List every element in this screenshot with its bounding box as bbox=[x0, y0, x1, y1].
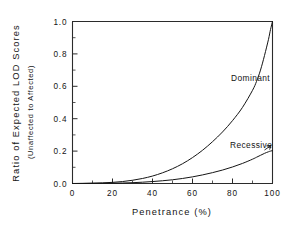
y-axis-title-main: Ratio of Expected LOD Scores bbox=[11, 24, 21, 181]
curve-dominant bbox=[73, 22, 273, 184]
x-tick-labels: 020406080100 bbox=[70, 189, 281, 198]
data-curves bbox=[73, 22, 273, 184]
y-tick-label: 1.0 bbox=[53, 18, 67, 27]
x-tick-label: 80 bbox=[227, 189, 238, 198]
y-axis-title-sub: (Unaffected to Affected) bbox=[26, 65, 35, 159]
axis-ticks bbox=[73, 22, 273, 184]
chart-figure: 020406080100 0.00.20.40.60.81.0 Dominant… bbox=[0, 0, 297, 225]
y-tick-label: 0.4 bbox=[53, 115, 67, 124]
penetrance-lod-ratio-chart: 020406080100 0.00.20.40.60.81.0 Dominant… bbox=[0, 0, 297, 225]
x-tick-label: 60 bbox=[187, 189, 198, 198]
curve-recessive bbox=[73, 151, 273, 184]
x-tick-label: 40 bbox=[147, 189, 158, 198]
y-tick-labels: 0.00.20.40.60.81.0 bbox=[53, 18, 67, 189]
plot-frame bbox=[72, 22, 273, 184]
x-tick-label: 0 bbox=[70, 189, 75, 198]
y-tick-label: 0.0 bbox=[53, 180, 67, 189]
x-tick-label: 100 bbox=[264, 189, 280, 198]
x-tick-label: 20 bbox=[107, 189, 118, 198]
dominant-curve-label: Dominant bbox=[231, 73, 270, 83]
x-axis-title: Penetrance (%) bbox=[132, 207, 212, 217]
y-tick-label: 0.6 bbox=[53, 82, 67, 91]
recessive-curve-label: Recessive bbox=[230, 140, 272, 150]
y-tick-label: 0.8 bbox=[53, 50, 67, 59]
y-tick-label: 0.2 bbox=[53, 147, 67, 156]
